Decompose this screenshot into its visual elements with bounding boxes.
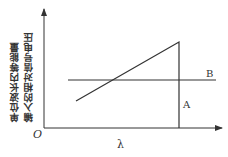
curve-a-label: A [183, 99, 190, 110]
curve-b-label: B [206, 68, 213, 79]
y-axis-label: 单位波长内等能量 输入的相对信号电压 [6, 22, 36, 122]
origin-label: O [33, 128, 42, 141]
y-axis-label-line-1: 单位波长内等能量 [9, 22, 20, 122]
x-axis-label: λ [117, 138, 124, 151]
y-axis-label-line-2: 输入的相对信号电压 [23, 22, 34, 122]
curve-a [76, 42, 179, 128]
